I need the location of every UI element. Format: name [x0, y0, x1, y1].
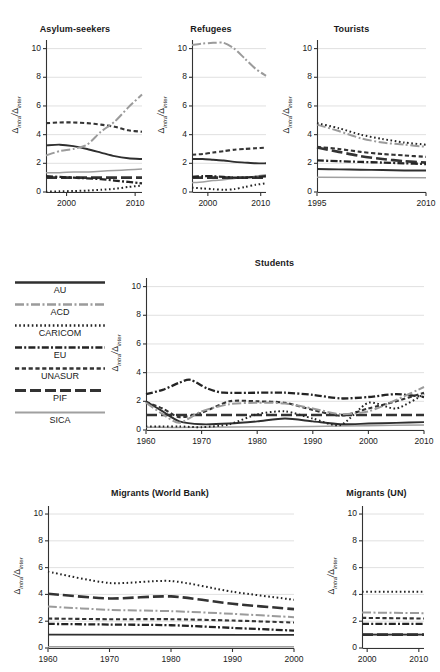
ytick-label: 8 — [338, 535, 357, 545]
ytick-label: 8 — [293, 71, 312, 81]
xtick-label: 1970 — [182, 436, 222, 446]
panel-migrants-un: Migrants (UN) 024681020002010Δintra/Δint… — [322, 488, 431, 672]
series-line-eu — [192, 176, 266, 178]
ytick-label: 10 — [293, 43, 312, 53]
ytick-label: 0 — [24, 642, 43, 652]
legend-label: CARICOM — [8, 328, 112, 338]
xtick-label: 2010 — [404, 436, 440, 446]
ytick-label: 2 — [293, 157, 312, 167]
ytick-label: 10 — [168, 43, 187, 53]
ytick-label: 6 — [22, 100, 41, 110]
legend-item-unasur[interactable]: UNASUR — [8, 364, 112, 386]
ytick-label: 4 — [338, 588, 357, 598]
legend-item-eu[interactable]: EU — [8, 343, 112, 365]
series-line-eu — [146, 380, 424, 399]
ytick-label: 8 — [24, 535, 43, 545]
ytick-label: 10 — [24, 508, 43, 518]
series-line-acd — [192, 43, 266, 76]
ytick-label: 0 — [22, 186, 41, 196]
legend-item-pif[interactable]: PIF — [8, 386, 112, 408]
xtick-label: 2010 — [115, 198, 155, 208]
legend-key-sica — [14, 410, 106, 414]
series-line-acd — [48, 606, 294, 617]
ytick-label: 4 — [293, 129, 312, 139]
ytick-label: 4 — [24, 588, 43, 598]
ytick-label: 8 — [168, 71, 187, 81]
panel-title-tourists: Tourists — [272, 24, 431, 34]
y-axis-label: Δintra/Δinter — [110, 317, 122, 389]
xtick-label: 1980 — [237, 436, 277, 446]
legend: AUACDCARICOMEUUNASURPIFSICA — [8, 278, 112, 429]
plot-area-students — [146, 278, 424, 430]
ytick-label: 2 — [24, 615, 43, 625]
xtick-label: 2000 — [188, 198, 228, 208]
series-line-caricom — [46, 186, 142, 192]
ytick-label: 0 — [293, 186, 312, 196]
series-line-eu — [48, 624, 294, 631]
legend-key-eu — [14, 345, 106, 349]
panel-students: Students 0246810196019701980199020002010… — [118, 258, 431, 454]
ytick-label: 8 — [122, 309, 141, 319]
series-line-unasur — [362, 618, 424, 619]
panel-tourists: Tourists 024681019952010Δintra/Δinter — [272, 24, 431, 214]
plot-area-tourists — [317, 40, 426, 192]
ytick-label: 2 — [168, 157, 187, 167]
series-line-acd — [46, 94, 142, 155]
xtick-label: 2000 — [274, 654, 314, 664]
legend-label: SICA — [8, 415, 112, 425]
ytick-label: 6 — [122, 338, 141, 348]
legend-item-acd[interactable]: ACD — [8, 300, 112, 322]
xtick-label: 1990 — [293, 436, 333, 446]
ytick-label: 6 — [338, 562, 357, 572]
series-line-caricom — [192, 183, 266, 189]
panel-migrants-world-bank: Migrants (World Bank) 024681019601970198… — [0, 488, 320, 672]
series-line-sica — [146, 425, 424, 427]
ytick-label: 10 — [338, 508, 357, 518]
legend-label: AU — [8, 285, 112, 295]
ytick-label: 4 — [168, 129, 187, 139]
xtick-label: 1980 — [151, 654, 191, 664]
xtick-label: 1995 — [297, 198, 337, 208]
ytick-label: 0 — [122, 424, 141, 434]
y-axis-label: Δintra/Δinter — [10, 79, 22, 151]
legend-label: ACD — [8, 307, 112, 317]
legend-key-pif — [14, 388, 106, 392]
ytick-label: 4 — [122, 367, 141, 377]
y-axis-label: Δintra/Δinter — [156, 79, 168, 151]
ytick-label: 2 — [122, 395, 141, 405]
legend-item-sica[interactable]: SICA — [8, 408, 112, 430]
plot-area-asylum-seekers — [46, 40, 142, 192]
legend-key-au — [14, 280, 106, 284]
series-line-au — [192, 159, 266, 163]
xtick-label: 2010 — [406, 198, 440, 208]
plot-area-refugees — [192, 40, 266, 192]
xtick-label: 2000 — [47, 198, 87, 208]
y-axis-label: Δintra/Δinter — [281, 79, 293, 151]
series-line-unasur — [192, 148, 266, 155]
series-line-acd — [317, 125, 426, 147]
panel-title-migrants-world-bank: Migrants (World Bank) — [0, 488, 320, 498]
series-line-pif — [48, 594, 294, 609]
xtick-label: 2010 — [399, 654, 439, 664]
legend-item-au[interactable]: AU — [8, 278, 112, 300]
series-line-au — [317, 169, 426, 170]
ytick-label: 4 — [22, 129, 41, 139]
y-axis-label: Δintra/Δinter — [12, 540, 24, 612]
legend-label: EU — [8, 350, 112, 360]
legend-label: UNASUR — [8, 371, 112, 381]
xtick-label: 2000 — [347, 654, 387, 664]
legend-item-caricom[interactable]: CARICOM — [8, 321, 112, 343]
ytick-label: 10 — [122, 281, 141, 291]
series-line-acd — [362, 613, 424, 614]
ytick-label: 2 — [22, 157, 41, 167]
panel-title-refugees: Refugees — [152, 24, 270, 34]
series-line-unasur — [48, 619, 294, 623]
panel-asylum-seekers: Asylum-seekers 024681020002010Δintra/Δin… — [0, 24, 150, 214]
legend-key-caricom — [14, 323, 106, 327]
legend-key-acd — [14, 302, 106, 306]
series-line-au — [46, 145, 142, 159]
xtick-label: 1970 — [90, 654, 130, 664]
xtick-label: 1960 — [126, 436, 166, 446]
series-line-unasur — [46, 122, 142, 131]
